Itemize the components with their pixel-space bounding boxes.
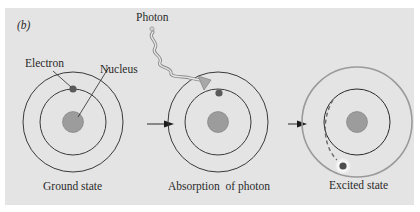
nucleus-label: Nucleus bbox=[100, 64, 138, 76]
photon-wave-icon bbox=[150, 27, 211, 90]
ground-state-atom bbox=[23, 67, 123, 172]
nucleus bbox=[63, 112, 84, 133]
excited-state-atom bbox=[302, 67, 412, 177]
absorption-atom bbox=[168, 72, 268, 172]
photon-label: Photon bbox=[136, 12, 169, 24]
excited-electron bbox=[339, 162, 346, 169]
electron-label: Electron bbox=[25, 58, 64, 70]
ground-state-caption: Ground state bbox=[43, 181, 102, 193]
nucleus bbox=[208, 112, 229, 133]
electron bbox=[215, 89, 222, 96]
absorption-caption: Absorption of photon bbox=[168, 181, 270, 193]
nucleus bbox=[347, 112, 368, 133]
arrow-right-icon bbox=[147, 121, 174, 128]
arrow-right-icon bbox=[288, 121, 307, 128]
panel-label: (b) bbox=[17, 20, 30, 32]
excited-state-caption: Excited state bbox=[329, 180, 388, 192]
